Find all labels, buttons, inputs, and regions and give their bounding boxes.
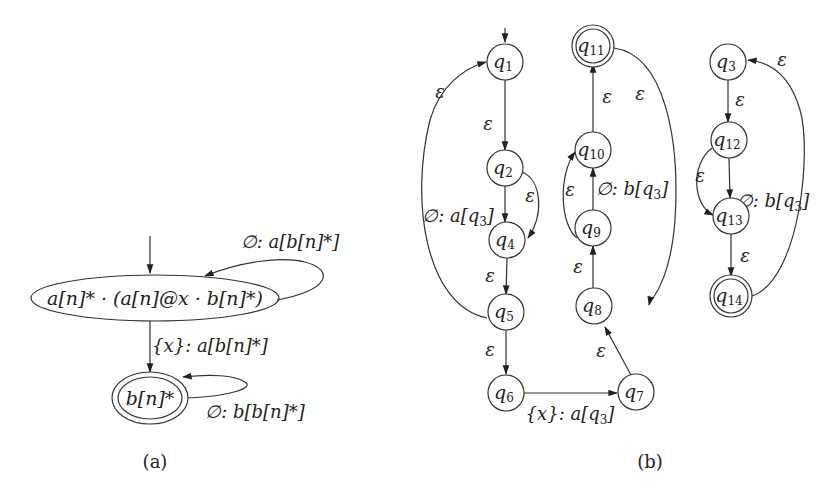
edge-q7-q8 bbox=[605, 327, 631, 375]
edge-q6-q7-label: {x}: a[q3] bbox=[526, 403, 616, 427]
edge-q9-q10-a-label: ∅: b[q3] bbox=[596, 178, 670, 202]
edge-q11-q8 bbox=[614, 48, 676, 305]
automata-figure: a[n]* · (a[n]@x · b[n]*) ∅: a[b[n]*] {x}… bbox=[0, 0, 840, 496]
edge-q2-q4-a-label: ∅: a[q3] bbox=[422, 205, 495, 229]
edge-q7-q8-label: ε bbox=[596, 340, 606, 361]
edge-q3-q12-label: ε bbox=[735, 89, 745, 110]
edge-q9-q10-eps-label: ε bbox=[565, 179, 575, 200]
edge-s0-s0-label: ∅: a[b[n]*] bbox=[241, 231, 341, 252]
panel-b: ε ∅: a[q3] ε ε ε ε {x}: a[q3] ε ε ∅: b[q… bbox=[422, 25, 811, 472]
state-s1-label: b[n]* bbox=[126, 387, 175, 409]
edge-q8-q9-label: ε bbox=[573, 256, 583, 277]
edge-q4-q5 bbox=[506, 258, 507, 294]
edge-q12-q13-eps-label: ε bbox=[695, 165, 705, 186]
caption-b: (b) bbox=[637, 451, 663, 472]
state-q9: q9 bbox=[575, 210, 611, 246]
state-q8: q8 bbox=[576, 288, 612, 324]
state-q11: q11 bbox=[572, 25, 614, 67]
state-q4: q4 bbox=[489, 222, 525, 258]
state-q3: q3 bbox=[710, 44, 746, 80]
edge-q13-q14-label: ε bbox=[740, 245, 750, 266]
edge-q12-q13-a bbox=[729, 158, 730, 198]
state-q1: q1 bbox=[487, 44, 523, 80]
panel-a: a[n]* · (a[n]@x · b[n]*) ∅: a[b[n]*] {x}… bbox=[31, 231, 340, 472]
edge-q1-q2-label: ε bbox=[483, 113, 493, 134]
edge-q14-q3 bbox=[748, 60, 804, 296]
edge-s0-s1-label: {x}: a[b[n]*] bbox=[152, 335, 269, 356]
edge-s1-s1-label: ∅: b[b[n]*] bbox=[205, 401, 305, 422]
state-q2: q2 bbox=[487, 150, 523, 186]
state-q14: q14 bbox=[710, 275, 752, 317]
edge-q2-q4-eps-label: ε bbox=[525, 185, 535, 206]
edge-q5-q6-label: ε bbox=[485, 339, 495, 360]
edge-q14-q3-label: ε bbox=[777, 49, 787, 70]
edge-s1-s1 bbox=[183, 375, 247, 398]
state-q6: q6 bbox=[488, 375, 524, 411]
state-q5: q5 bbox=[488, 294, 524, 330]
state-s0-label: a[n]* · (a[n]@x · b[n]*) bbox=[47, 287, 263, 309]
edge-q5-q1-label: ε bbox=[435, 81, 445, 102]
edge-q11-q8-label: ε bbox=[635, 83, 645, 104]
state-q12: q12 bbox=[711, 122, 747, 158]
edge-q10-q11-label: ε bbox=[602, 86, 612, 107]
state-q7: q7 bbox=[618, 374, 654, 410]
edge-q4-q5-label: ε bbox=[485, 265, 495, 286]
state-q13: q13 bbox=[713, 198, 749, 234]
state-q10: q10 bbox=[575, 132, 611, 168]
edge-q5-q1 bbox=[422, 62, 487, 318]
caption-a: (a) bbox=[143, 451, 168, 472]
